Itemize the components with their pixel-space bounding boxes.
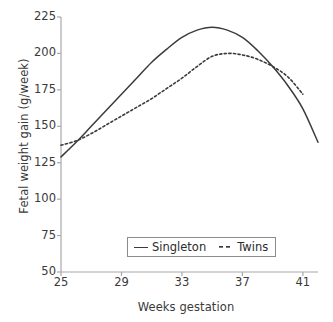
- legend-label-singleton: Singleton: [152, 241, 206, 253]
- legend-entry-singleton: Singleton: [134, 241, 206, 253]
- legend-entry-twins: Twins: [219, 241, 268, 253]
- fetal-weight-gain-chart: Fetal weight gain (g/week) 5075100125150…: [0, 0, 333, 322]
- legend-line-dashed-icon: [219, 246, 233, 248]
- plot-area: [0, 0, 333, 322]
- series-line-singleton: [61, 27, 318, 157]
- legend-label-twins: Twins: [237, 241, 268, 253]
- legend-line-solid-icon: [134, 247, 148, 248]
- x-axis-label: Weeks gestation: [61, 300, 311, 314]
- chart-legend: Singleton Twins: [127, 237, 276, 257]
- series-line-twins: [61, 53, 303, 145]
